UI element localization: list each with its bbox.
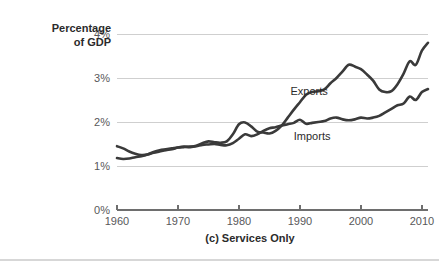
y-axis-label-line2: of GDP	[74, 36, 111, 48]
y-axis-tick-labels: 0%1%2%3%4%	[94, 28, 110, 216]
x-tick-label-1960: 1960	[105, 215, 129, 227]
axes	[117, 205, 428, 210]
series-annotations: ExportsImports	[290, 85, 331, 143]
x-tick-label-2000: 2000	[349, 215, 373, 227]
series-label-exports: Exports	[290, 85, 328, 97]
y-axis-label-line1: Percentage	[52, 22, 111, 34]
line-series-exports	[117, 43, 428, 155]
gridlines	[117, 34, 428, 166]
line-series-imports	[117, 89, 428, 159]
chart-figure: 0%1%2%3%4% 196019701980199020002010 Expo…	[0, 0, 439, 261]
x-tick-label-2010: 2010	[410, 215, 434, 227]
services-only-line-chart: 0%1%2%3%4% 196019701980199020002010 Expo…	[0, 0, 439, 261]
y-tick-label-2%: 2%	[94, 116, 110, 128]
x-axis-tick-labels: 196019701980199020002010	[105, 215, 434, 227]
y-tick-label-1%: 1%	[94, 160, 110, 172]
series-label-imports: Imports	[294, 130, 331, 142]
chart-caption: (c) Services Only	[205, 232, 295, 244]
data-series	[117, 43, 428, 159]
y-tick-label-3%: 3%	[94, 72, 110, 84]
x-tick-label-1990: 1990	[288, 215, 312, 227]
x-tick-label-1980: 1980	[227, 215, 251, 227]
x-tick-label-1970: 1970	[166, 215, 190, 227]
